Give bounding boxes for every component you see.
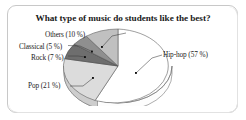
chart-screenshot: What type of music do students like the … <box>0 0 246 120</box>
marker-rock <box>84 56 86 58</box>
pie-label-others: Others (10 %) <box>45 30 85 39</box>
marker-others <box>101 46 103 48</box>
marker-classical <box>91 51 93 53</box>
pie-label-hiphop: Hip-hop (57 %) <box>163 50 208 59</box>
pie-slices <box>63 29 168 103</box>
marker-pop <box>92 77 94 79</box>
marker-hiphop <box>135 72 137 74</box>
pie-label-rock: Rock (7 %) <box>31 53 64 62</box>
pie-label-pop: Pop (21 %) <box>28 81 60 90</box>
pie-label-classical: Classical (5 %) <box>19 42 62 51</box>
